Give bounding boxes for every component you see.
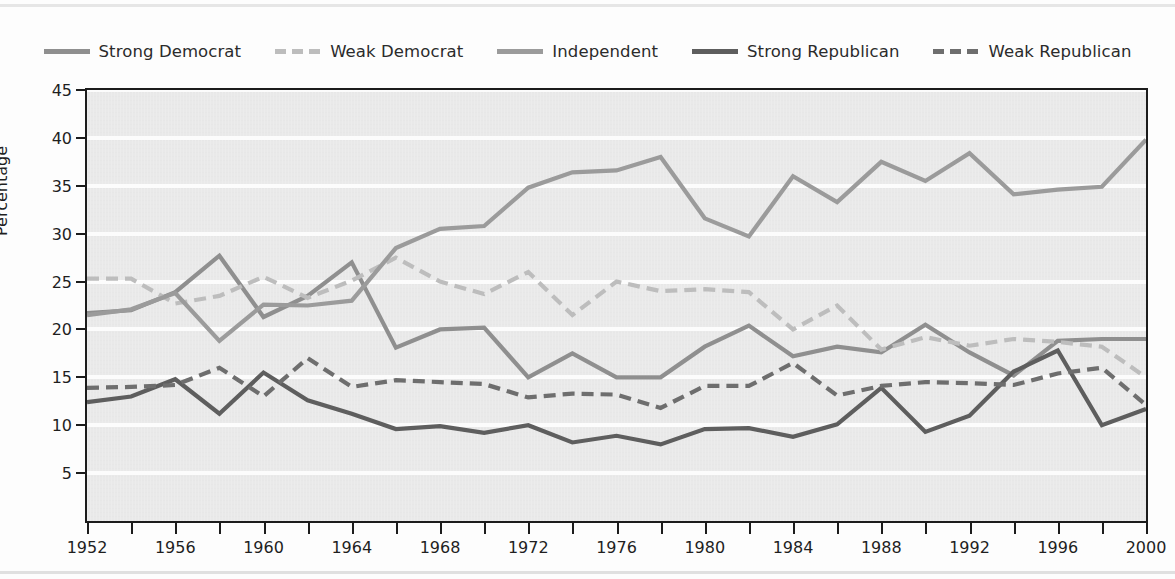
x-tick-label: 2000 bbox=[1126, 538, 1167, 557]
y-tick-label: 15 bbox=[38, 368, 72, 387]
y-tick-mark bbox=[76, 376, 85, 378]
x-tick-label: 1984 bbox=[773, 538, 814, 557]
x-tick-mark bbox=[661, 523, 663, 534]
x-tick-mark bbox=[881, 523, 883, 534]
legend-label: Strong Republican bbox=[747, 42, 899, 61]
legend-item-weak-republican[interactable]: Weak Republican bbox=[933, 42, 1131, 61]
x-tick-label: 1976 bbox=[596, 538, 637, 557]
y-tick-label: 25 bbox=[38, 272, 72, 291]
y-tick-label: 30 bbox=[38, 224, 72, 243]
legend-item-strong-democrat[interactable]: Strong Democrat bbox=[44, 42, 242, 61]
y-tick-mark bbox=[76, 472, 85, 474]
series-line-independent bbox=[87, 140, 1146, 341]
x-tick-mark bbox=[528, 523, 530, 534]
x-tick-mark bbox=[749, 523, 751, 534]
x-tick-mark bbox=[396, 523, 398, 534]
y-tick-mark bbox=[76, 328, 85, 330]
x-tick-label: 1988 bbox=[861, 538, 902, 557]
chart-legend: Strong DemocratWeak DemocratIndependentS… bbox=[0, 33, 1175, 69]
x-tick-label: 1996 bbox=[1037, 538, 1078, 557]
legend-item-independent[interactable]: Independent bbox=[497, 42, 658, 61]
x-tick-mark bbox=[352, 523, 354, 534]
legend-swatch-dashed-icon bbox=[275, 49, 321, 54]
y-tick-label: 20 bbox=[38, 320, 72, 339]
legend-swatch-solid-icon bbox=[692, 49, 738, 54]
x-tick-mark bbox=[705, 523, 707, 534]
x-tick-mark bbox=[837, 523, 839, 534]
legend-label: Independent bbox=[552, 42, 658, 61]
plot-area bbox=[85, 88, 1148, 523]
y-tick-mark bbox=[76, 424, 85, 426]
y-tick-label: 35 bbox=[38, 176, 72, 195]
x-tick-label: 1956 bbox=[155, 538, 196, 557]
y-tick-mark bbox=[76, 233, 85, 235]
x-tick-mark bbox=[925, 523, 927, 534]
x-tick-label: 1952 bbox=[67, 538, 108, 557]
legend-item-weak-democrat[interactable]: Weak Democrat bbox=[275, 42, 463, 61]
x-tick-mark bbox=[1102, 523, 1104, 534]
legend-label: Strong Democrat bbox=[99, 42, 242, 61]
x-tick-label: 1968 bbox=[420, 538, 461, 557]
y-tick-mark bbox=[76, 185, 85, 187]
x-tick-mark bbox=[484, 523, 486, 534]
legend-swatch-solid-icon bbox=[44, 49, 90, 54]
legend-item-strong-republican[interactable]: Strong Republican bbox=[692, 42, 899, 61]
top-divider bbox=[0, 4, 1175, 7]
x-tick-mark bbox=[308, 523, 310, 534]
x-tick-mark bbox=[1014, 523, 1016, 534]
x-tick-mark bbox=[175, 523, 177, 534]
x-tick-mark bbox=[1146, 523, 1148, 534]
y-tick-label: 40 bbox=[38, 128, 72, 147]
legend-swatch-solid-icon bbox=[497, 49, 543, 54]
x-tick-label: 1980 bbox=[684, 538, 725, 557]
y-tick-label: 10 bbox=[38, 416, 72, 435]
x-tick-mark bbox=[440, 523, 442, 534]
x-tick-mark bbox=[131, 523, 133, 534]
x-tick-mark bbox=[219, 523, 221, 534]
legend-swatch-dashed-icon bbox=[933, 49, 979, 54]
bottom-divider bbox=[0, 571, 1175, 574]
series-line-strong-republican bbox=[87, 351, 1146, 445]
x-tick-mark bbox=[970, 523, 972, 534]
x-tick-mark bbox=[87, 523, 89, 534]
legend-label: Weak Republican bbox=[988, 42, 1131, 61]
chart-figure: Strong DemocratWeak DemocratIndependentS… bbox=[0, 0, 1175, 579]
x-tick-label: 1964 bbox=[331, 538, 372, 557]
x-tick-label: 1972 bbox=[508, 538, 549, 557]
x-tick-label: 1960 bbox=[243, 538, 284, 557]
legend-label: Weak Democrat bbox=[330, 42, 463, 61]
x-tick-mark bbox=[793, 523, 795, 534]
x-tick-mark bbox=[264, 523, 266, 534]
x-tick-label: 1992 bbox=[949, 538, 990, 557]
y-tick-label: 45 bbox=[38, 81, 72, 100]
y-axis-title: Percentage bbox=[0, 146, 11, 236]
y-tick-label: 5 bbox=[38, 464, 72, 483]
x-tick-mark bbox=[572, 523, 574, 534]
x-tick-mark bbox=[617, 523, 619, 534]
y-tick-mark bbox=[76, 137, 85, 139]
y-tick-mark bbox=[76, 281, 85, 283]
x-tick-mark bbox=[1058, 523, 1060, 534]
y-tick-mark bbox=[76, 89, 85, 91]
series-lines bbox=[87, 90, 1146, 521]
